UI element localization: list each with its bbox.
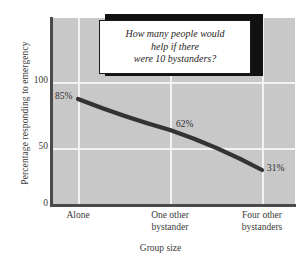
- y-tick-label-100: 100: [18, 75, 48, 85]
- callout-line-2: help if there: [125, 41, 224, 54]
- chart-figure: Percentage responding to emergency 100 5…: [0, 0, 307, 267]
- x-tick-label-one-other: One other bystander: [127, 210, 213, 233]
- x-tick-one-other-line2: bystander: [127, 222, 213, 234]
- x-tick-one-other-line1: One other: [127, 210, 213, 222]
- callout-text: How many people would help if there were…: [120, 28, 229, 66]
- y-tick-label-50: 50: [18, 141, 48, 151]
- y-axis-title: Percentage responding to emergency: [20, 18, 30, 208]
- x-axis-title-text: Group size: [126, 243, 181, 253]
- callout-annotation: How many people would help if there were…: [99, 14, 257, 78]
- data-label-four-other: 31%: [267, 163, 284, 173]
- callout-line-3: were 10 bystanders?: [125, 53, 224, 66]
- x-axis-title: Group size: [0, 243, 307, 253]
- data-label-one-other: 62%: [176, 119, 193, 129]
- y-tick-label-0: 0: [18, 198, 48, 208]
- x-axis-line: [50, 204, 296, 207]
- callout-line-1: How many people would: [125, 28, 224, 41]
- callout-box: How many people would help if there were…: [99, 20, 251, 74]
- y-axis-line: [50, 17, 53, 207]
- x-tick-alone-line1: Alone: [35, 210, 121, 222]
- x-tick-label-alone: Alone: [35, 210, 121, 222]
- x-tick-four-other-line2: bystanders: [219, 222, 305, 234]
- x-tick-label-four-other: Four other bystanders: [219, 210, 305, 233]
- data-label-alone: 85%: [55, 91, 72, 101]
- x-tick-four-other-line1: Four other: [219, 210, 305, 222]
